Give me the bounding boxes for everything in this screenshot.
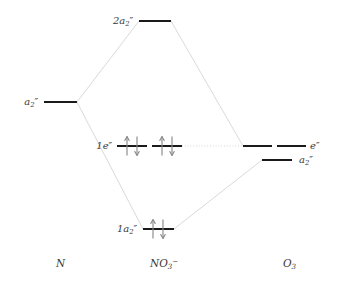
correlation-line	[77, 102, 143, 229]
level-label-center-1epp: 1e″	[0, 141, 112, 151]
column-label-center: NO3−	[150, 258, 178, 270]
energy-levels-group	[44, 21, 306, 229]
level-label-right-epp: e″	[310, 141, 319, 151]
column-label-left: N	[56, 258, 65, 269]
correlation-line	[171, 21, 243, 146]
column-label-right: O3	[283, 258, 296, 270]
correlation-line	[77, 21, 139, 102]
mo-diagram-figure: a2″2a2″1e″1a2″e″a2″ NNO3−O3	[0, 0, 346, 281]
correlation-lines-group	[77, 21, 262, 229]
level-label-left-a2pp: a2″	[0, 97, 38, 109]
level-label-center-2a2pp: 2a2″	[0, 16, 133, 28]
level-label-center-1a2pp: 1a2″	[0, 224, 137, 236]
level-label-right-a2pp: a2″	[299, 155, 313, 167]
correlation-line	[174, 160, 262, 229]
